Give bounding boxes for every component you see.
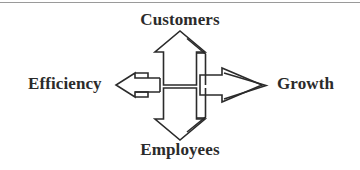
left-arrow-lower-stub: [135, 92, 148, 97]
label-employees: Employees: [0, 140, 360, 160]
diagram-figure: Customers Employees Efficiency Growth: [0, 0, 360, 170]
label-growth: Growth: [277, 74, 334, 94]
label-customers: Customers: [0, 10, 360, 30]
label-efficiency: Efficiency: [28, 74, 102, 94]
down-arrow-outline: [155, 88, 205, 140]
left-arrow-outline: [116, 73, 160, 97]
up-arrow-outline: [155, 31, 205, 85]
